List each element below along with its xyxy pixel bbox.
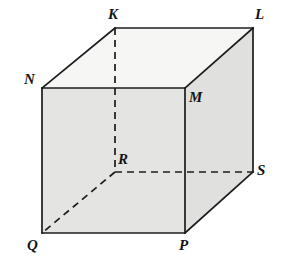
vertex-label-n: N: [24, 72, 35, 87]
vertex-label-m: M: [189, 90, 202, 105]
vertex-label-r: R: [118, 152, 128, 167]
faces-group: [42, 28, 253, 233]
vertex-label-q: Q: [27, 238, 38, 253]
cube-svg: [0, 0, 281, 269]
face-N-M-P-Q: [42, 88, 185, 233]
vertex-label-s: S: [257, 163, 265, 178]
vertex-label-p: P: [179, 238, 188, 253]
vertex-label-k: K: [108, 7, 118, 22]
cube-diagram: KLNMRSQP: [0, 0, 281, 269]
vertex-label-l: L: [255, 7, 264, 22]
